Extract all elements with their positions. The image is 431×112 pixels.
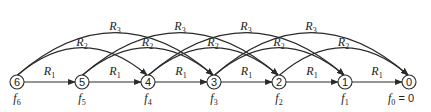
node-4: 4f4 <box>141 75 155 107</box>
edge-r2-4-2 <box>148 48 278 76</box>
value-label-f5: f5 <box>78 91 85 107</box>
edge-label-r1: R1 <box>370 64 382 80</box>
node-6: 6f6 <box>10 75 24 107</box>
node-3: 3f3 <box>207 75 221 107</box>
node-label: 1 <box>342 76 348 88</box>
value-label-f2: f2 <box>275 91 282 107</box>
edge-label-r3: R3 <box>239 19 251 35</box>
node-label: 3 <box>211 76 217 88</box>
edge-r2-2-0 <box>279 48 408 76</box>
node-label: 0 <box>406 76 412 88</box>
edge-label-r1: R1 <box>305 64 317 80</box>
node-2: 2f2 <box>272 75 286 107</box>
node-label: 4 <box>145 76 151 88</box>
value-label-f3: f3 <box>210 91 217 107</box>
value-label-f6: f6 <box>13 91 20 107</box>
stage-graph: R1R1R1R1R1R1R2R2R2R2R2R3R3R3R3 6f65f54f4… <box>0 0 431 112</box>
edge-label-r1: R1 <box>108 64 120 80</box>
edge-label-r1: R1 <box>174 64 186 80</box>
node-1: 1f1 <box>338 75 352 107</box>
value-label-f4: f4 <box>144 91 151 107</box>
stage-graph-diagram: R1R1R1R1R1R1R2R2R2R2R2R3R3R3R3 6f65f54f4… <box>0 0 431 112</box>
edge-r2-6-4 <box>17 48 147 76</box>
edges-layer: R1R1R1R1R1R1R2R2R2R2R2R3R3R3R3 <box>17 19 408 82</box>
node-label: 5 <box>79 76 85 88</box>
value-label-f0: f0 = 0 <box>388 91 414 107</box>
value-label-f1: f1 <box>341 91 348 107</box>
edge-r2-5-3 <box>82 48 213 76</box>
node-5: 5f5 <box>75 75 89 107</box>
edge-label-r3: R3 <box>173 19 185 35</box>
edge-r2-3-1 <box>214 48 344 76</box>
node-0: 0f0 = 0 <box>388 75 416 107</box>
edge-label-r1: R1 <box>240 64 252 80</box>
edge-label-r3: R3 <box>304 19 316 35</box>
nodes-layer: 6f65f54f43f32f21f10f0 = 0 <box>10 75 416 107</box>
node-label: 2 <box>276 76 282 88</box>
edge-label-r3: R3 <box>108 19 120 35</box>
edge-label-r1: R1 <box>43 64 55 80</box>
node-label: 6 <box>14 76 20 88</box>
